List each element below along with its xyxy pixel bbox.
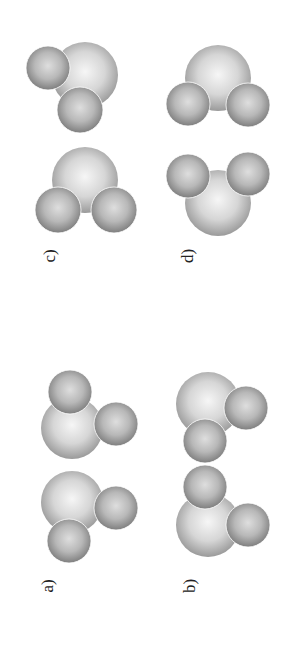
- water-molecule-figure: c) d) a) b): [0, 0, 289, 658]
- molecule-a1: [41, 370, 138, 459]
- molecule-a2: [41, 471, 138, 563]
- label-a: a): [38, 574, 58, 598]
- molecule-c1: [26, 42, 118, 133]
- molecule-d1: [166, 45, 270, 127]
- molecule-drawing: [0, 0, 289, 658]
- molecule-b1: [176, 372, 268, 463]
- molecule-b2: [176, 465, 270, 557]
- label-c: c): [40, 244, 60, 268]
- molecule-d2: [166, 152, 270, 236]
- molecule-c2: [35, 147, 137, 233]
- label-d: d): [178, 244, 198, 268]
- label-b: b): [180, 574, 200, 598]
